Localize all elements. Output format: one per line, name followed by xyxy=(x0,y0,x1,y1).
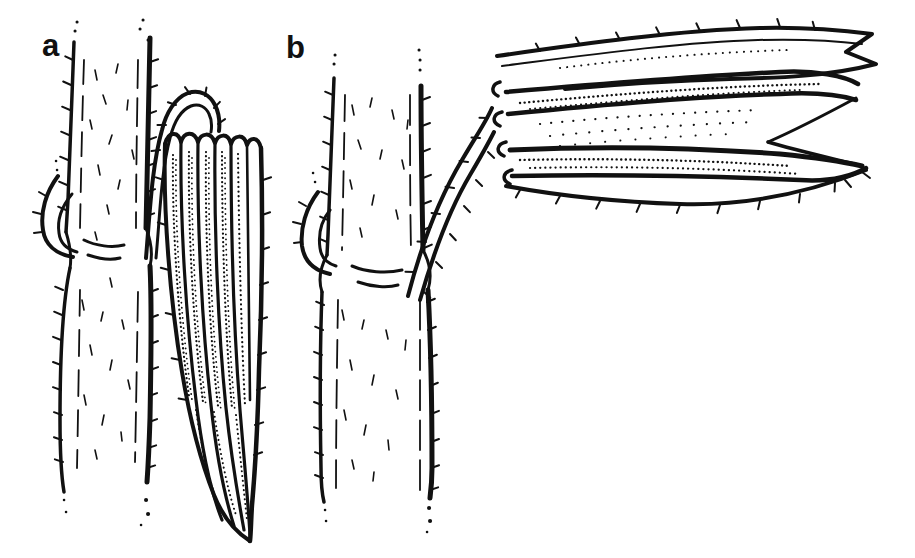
panel-b-stem xyxy=(320,50,432,532)
panel-a-young-leaf xyxy=(164,134,263,541)
panel-b-leaf xyxy=(493,27,876,205)
panel-b-label: b xyxy=(286,32,305,63)
panel-a-stem xyxy=(60,20,151,525)
panel-b-drawing xyxy=(293,27,876,532)
panel-a-label: a xyxy=(42,30,59,61)
botanical-figure: a b xyxy=(0,0,915,558)
illustration-canvas xyxy=(0,0,915,558)
panel-a-drawing xyxy=(33,20,263,541)
